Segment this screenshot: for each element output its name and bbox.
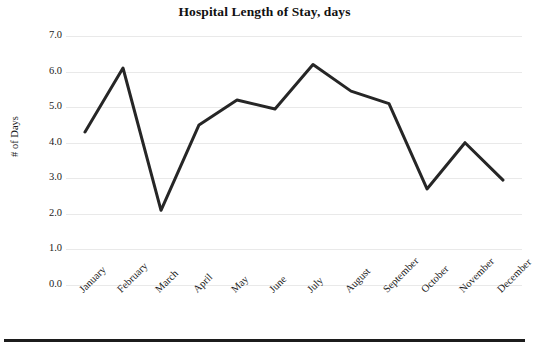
plot-area bbox=[66, 36, 522, 285]
y-axis-tick-label: 7.0 bbox=[22, 30, 62, 41]
y-axis-tick-labels: 7.06.05.04.03.02.01.00.0 bbox=[18, 36, 62, 285]
y-axis-tick-label: 3.0 bbox=[22, 172, 62, 183]
series-line bbox=[66, 36, 522, 285]
gridline bbox=[66, 285, 522, 286]
y-axis-tick-label: 2.0 bbox=[22, 208, 62, 219]
y-axis-tick-label: 6.0 bbox=[22, 66, 62, 77]
y-axis-tick-label: 0.0 bbox=[22, 279, 62, 290]
chart-title: Hospital Length of Stay, days bbox=[0, 4, 529, 20]
series-polyline bbox=[85, 64, 503, 210]
x-axis-tick-labels: JanuaryFebruaryMarchAprilMayJuneJulyAugu… bbox=[66, 287, 522, 342]
y-axis-tick-label: 1.0 bbox=[22, 243, 62, 254]
y-axis-tick-label: 4.0 bbox=[22, 137, 62, 148]
bottom-rule bbox=[4, 339, 525, 342]
y-axis-tick-label: 5.0 bbox=[22, 101, 62, 112]
